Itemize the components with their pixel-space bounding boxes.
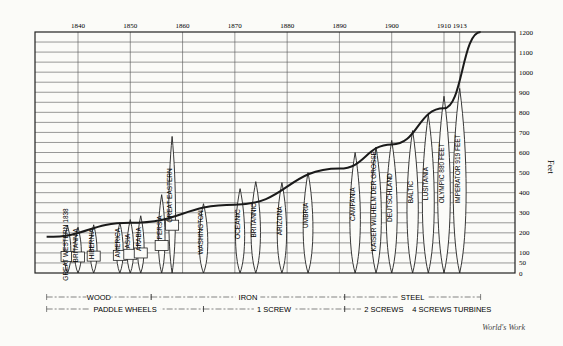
ship-campania: CAMPANIA	[349, 153, 360, 274]
x-tick-label: 1840	[71, 22, 86, 30]
ship-britannic: BRITANNIC	[250, 182, 261, 273]
y-tick-label: 400	[519, 189, 530, 197]
y-tick-label: 50	[519, 259, 527, 267]
ship-lusitania: LUSITANIA	[422, 115, 434, 273]
x-tick-label: 1850	[123, 22, 138, 30]
ship-label: OLYMPIC 880 FEET	[438, 143, 445, 203]
ship-label: CAMPANIA	[349, 187, 356, 221]
y-tick-label: 1200	[519, 29, 534, 37]
ship-label: GREAT WESTERN 1838	[62, 208, 69, 281]
ship-great-eastern: GREAT EASTERN	[166, 136, 179, 273]
ship-hibernia: HIBERNIA	[87, 225, 100, 273]
x-tick-label: 1910	[437, 22, 452, 30]
ship-label: ASIA	[124, 233, 131, 248]
ship-label: IMPERATOR 919 FEET	[454, 134, 461, 203]
y-tick-label: 300	[519, 209, 530, 217]
ship-umbria: UMBRIA	[302, 173, 313, 273]
y-tick-label: 1100	[519, 49, 533, 57]
x-tick-label: 1870	[228, 22, 243, 30]
ship-label: ARIZONA	[276, 206, 283, 236]
y-tick-label: 0	[519, 270, 523, 278]
era-label: PADDLE WHEELS	[93, 305, 156, 314]
y-tick-label: 900	[519, 89, 530, 97]
y-tick-label: 1000	[519, 69, 534, 77]
y-tick-label: 500	[519, 169, 530, 177]
ship-arizona: ARIZONA	[276, 183, 287, 273]
ship-label: HIBERNIA	[88, 228, 95, 259]
era-label: WOOD	[87, 293, 112, 302]
y-axis-title: Feet	[546, 160, 555, 175]
x-tick-label: 1890	[332, 22, 347, 30]
ship-washington: WASHINGTON	[197, 204, 207, 273]
x-tick-label: 1860	[176, 22, 191, 30]
ship-label: WASHINGTON	[197, 210, 204, 255]
ship-silhouettes: GREAT WESTERN 1838BRITANNIAHIBERNIAAMERI…	[61, 88, 466, 280]
ship-baltic: BALTIC	[407, 131, 419, 273]
y-tick-label: 200	[519, 229, 530, 237]
era-label: 1 SCREW	[257, 305, 292, 314]
x-tick-label: 1880	[280, 22, 295, 30]
ship-label: BALTIC	[407, 181, 414, 204]
credit-text: World's Work	[482, 323, 525, 332]
ship-label: PERSIA	[156, 215, 163, 240]
ship-oceanic: OCEANIC	[234, 189, 245, 273]
y-tick-label: 600	[519, 149, 530, 157]
ship-label: UMBRIA	[302, 202, 309, 228]
era-label: STEEL	[401, 293, 425, 302]
ship-length-chart: GREAT WESTERN 1838BRITANNIAHIBERNIAAMERI…	[0, 0, 563, 346]
y-tick-label: 100	[519, 249, 530, 257]
ship-olympic-880-feet: OLYMPIC 880 FEET	[438, 96, 451, 273]
ship-kaiser-wilhelm-der-grosse: KAISER WILHELM DER GROSSE	[370, 147, 381, 273]
ship-imperator-919-feet: IMPERATOR 919 FEET	[453, 88, 466, 273]
era-label: IRON	[239, 293, 258, 302]
era-label: 4 SCREWS TURBINES	[412, 305, 491, 314]
era-label: 2 SCREWS	[364, 305, 403, 314]
y-tick-label: 700	[519, 129, 530, 137]
ship-label: GREAT EASTERN	[166, 168, 173, 223]
y-axis-feet-labels: 0501002003004005006007008009001000110012…	[519, 29, 534, 278]
y-tick-label: 800	[519, 109, 530, 117]
x-axis-year-labels: 184018501860187018801890190019101913	[71, 22, 467, 30]
ship-arabia: ARABIA	[134, 216, 147, 273]
ship-label: ARABIA	[135, 226, 142, 251]
x-tick-label: 1900	[385, 22, 400, 30]
ship-label: BRITANNIC	[250, 203, 257, 238]
ship-label: AMERICA	[114, 227, 121, 257]
era-annotations: WOODIRONSTEELPADDLE WHEELS1 SCREW2 SCREW…	[47, 292, 498, 314]
ship-label: KAISER WILHELM DER GROSSE	[370, 150, 377, 251]
ship-label: LUSITANIA	[422, 166, 429, 200]
x-tick-label: 1913	[453, 22, 468, 30]
ship-label: OCEANIC	[234, 209, 241, 239]
ship-label: DEUTSCHLAND	[386, 173, 393, 222]
